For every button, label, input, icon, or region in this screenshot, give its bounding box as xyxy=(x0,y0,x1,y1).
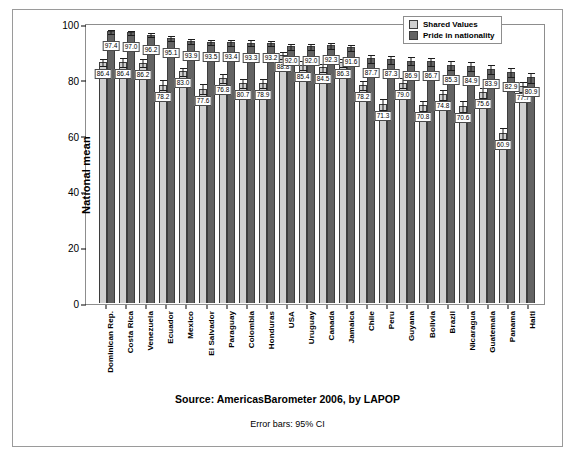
tick-mark xyxy=(286,305,287,309)
bar-group: 74.885.3 xyxy=(437,26,457,303)
y-axis-tick: 60 xyxy=(68,131,86,142)
category-label: Costa Rica xyxy=(126,311,135,353)
bar-value-label: 70.8 xyxy=(415,112,432,122)
bar-group: 76.893.4 xyxy=(217,26,237,303)
bar-shared-values: 78.2 xyxy=(359,85,367,303)
bar-value-label: 83.0 xyxy=(175,78,192,88)
bar-pride-in-nationality: 86.7 xyxy=(427,61,435,303)
bar-shared-values: 86.2 xyxy=(139,63,147,303)
bar-shared-values: 77.7 xyxy=(519,86,527,303)
bar-shared-values: 78.2 xyxy=(159,85,167,303)
tick-mark xyxy=(447,305,448,309)
bar-value-label: 91.6 xyxy=(343,57,360,67)
bar-group: 75.683.9 xyxy=(477,26,497,303)
bar-value-label: 80.9 xyxy=(523,87,540,97)
error-bar xyxy=(363,81,364,92)
tick-mark xyxy=(407,305,408,309)
category-label: Peru xyxy=(387,311,396,329)
error-bar xyxy=(183,68,184,77)
legend-swatch-icon xyxy=(409,31,418,40)
bar-value-label: 85.4 xyxy=(295,72,312,82)
category-label: Jamaica xyxy=(347,311,356,343)
tick-mark xyxy=(528,305,529,309)
bar-groups: 86.497.486.497.086.296.278.295.183.093.9… xyxy=(97,26,537,303)
category-label: Chile xyxy=(367,311,376,331)
bar-group: 84.592.3 xyxy=(317,26,337,303)
tick-mark xyxy=(126,305,127,309)
bar-value-label: 74.8 xyxy=(435,101,452,111)
bar-shared-values: 70.8 xyxy=(419,105,427,303)
error-bar xyxy=(231,40,232,47)
error-bar xyxy=(203,84,204,95)
error-bar xyxy=(191,39,192,46)
bar-group: 85.492.0 xyxy=(297,26,317,303)
error-bar xyxy=(483,88,484,99)
bar-value-label: 93.3 xyxy=(243,53,260,63)
bar-pride-in-nationality: 93.4 xyxy=(227,42,235,303)
category-label: Panama xyxy=(508,311,517,342)
bar-value-label: 78.9 xyxy=(255,90,272,100)
category-label: Colombia xyxy=(247,311,256,348)
category-label: Honduras xyxy=(267,311,276,349)
bar-pride-in-nationality: 93.3 xyxy=(247,43,255,303)
category-label: El Salvador xyxy=(207,311,216,356)
error-bar xyxy=(251,40,252,47)
tick-mark xyxy=(387,305,388,309)
chart-panel: National mean 020406080100 86.497.486.49… xyxy=(12,9,563,447)
error-bar xyxy=(503,128,504,140)
legend-label: Shared Values xyxy=(423,20,478,29)
error-bar xyxy=(291,44,292,51)
bar-value-label: 78.2 xyxy=(155,92,172,102)
y-axis-tick: 20 xyxy=(68,243,86,254)
bar-value-label: 93.9 xyxy=(183,51,200,61)
error-bar xyxy=(171,36,172,42)
error-bar xyxy=(383,99,384,111)
tick-mark xyxy=(106,305,107,309)
error-bar xyxy=(391,56,392,64)
chart-legend: Shared Values Pride in nationality xyxy=(403,16,502,44)
bar-shared-values: 79.0 xyxy=(399,83,407,303)
bar-group: 86.497.4 xyxy=(97,26,117,303)
bar-shared-values: 74.8 xyxy=(439,94,447,303)
error-bar xyxy=(211,40,212,47)
bar-value-label: 80.7 xyxy=(235,90,252,100)
y-axis-tick: 40 xyxy=(68,187,86,198)
bar-value-label: 92.0 xyxy=(303,56,320,66)
source-caption: Source: AmericasBarometer 2006, by LAPOP xyxy=(13,393,562,405)
bar-value-label: 86.4 xyxy=(115,69,132,79)
bar-value-label: 86.7 xyxy=(423,71,440,81)
error-bar xyxy=(371,55,372,63)
bar-value-label: 86.3 xyxy=(335,69,352,79)
bar-group: 77.693.5 xyxy=(197,26,217,303)
y-axis-tick: 0 xyxy=(73,299,86,310)
category-label: Nicaragua xyxy=(468,311,477,351)
plot-area: 86.497.486.497.086.296.278.295.183.093.9… xyxy=(87,26,543,303)
bar-group: 88.892.0 xyxy=(277,26,297,303)
error-bar xyxy=(311,44,312,51)
bar-value-label: 75.6 xyxy=(475,99,492,109)
tick-mark xyxy=(166,305,167,309)
error-bar xyxy=(351,45,352,52)
error-bar xyxy=(423,101,424,112)
bar-shared-values: 80.7 xyxy=(239,83,247,303)
tick-mark xyxy=(347,305,348,309)
tick-mark xyxy=(206,305,207,309)
bar-value-label: 76.8 xyxy=(215,85,232,95)
bar-value-label: 70.6 xyxy=(455,113,472,123)
error-bar xyxy=(223,74,224,84)
tick-mark xyxy=(186,305,187,309)
bar-value-label: 87.3 xyxy=(383,69,400,79)
category-label: Guatemala xyxy=(488,311,497,353)
category-label: Ecuador xyxy=(166,311,175,344)
bar-value-label: 93.5 xyxy=(203,52,220,62)
tick-mark xyxy=(146,305,147,309)
category-label: Guyana xyxy=(407,311,416,341)
y-axis-tick: 100 xyxy=(62,20,86,31)
bar-shared-values: 78.9 xyxy=(259,83,267,303)
bar-value-label: 86.4 xyxy=(95,69,112,79)
chart-page: National mean 020406080100 86.497.486.49… xyxy=(0,0,575,457)
bar-value-label: 78.2 xyxy=(355,92,372,102)
bar-pride-in-nationality: 91.6 xyxy=(347,47,355,303)
tick-mark xyxy=(367,305,368,309)
error-bar xyxy=(411,57,412,65)
